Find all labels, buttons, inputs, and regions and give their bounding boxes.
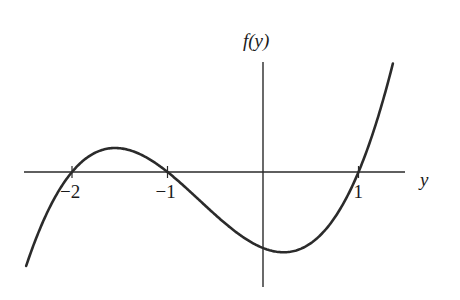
x-axis-label: y — [418, 169, 429, 190]
function-curve — [26, 64, 393, 266]
tick-label: −1 — [156, 181, 176, 202]
chart: −2−11 y f(y) — [0, 0, 460, 300]
tick-label: 1 — [354, 181, 364, 202]
y-axis-label: f(y) — [243, 30, 269, 52]
